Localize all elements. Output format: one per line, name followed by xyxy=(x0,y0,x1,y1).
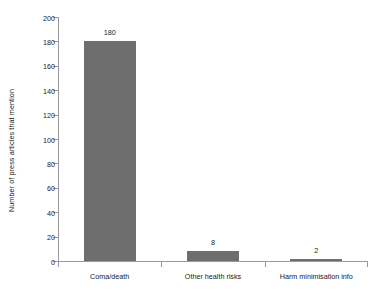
bar: 2 xyxy=(290,259,342,261)
x-axis-line xyxy=(58,261,368,262)
y-axis-tick-label: 80 xyxy=(47,159,55,168)
bar-value-label: 180 xyxy=(104,28,116,37)
x-axis-tick-mark xyxy=(161,262,162,267)
y-axis-tick-label: 120 xyxy=(43,111,55,120)
x-axis-category-label: Other health risks xyxy=(161,272,264,282)
x-axis-tick-mark xyxy=(265,262,266,267)
bar-chart: Number of press articles that mention 02… xyxy=(0,0,379,301)
y-axis-title: Number of press articles that mention xyxy=(0,0,22,301)
y-axis-tick-label: 100 xyxy=(43,135,55,144)
x-axis-category-label: Coma/death xyxy=(58,272,161,282)
bar: 180 xyxy=(84,41,136,261)
bar-value-label: 2 xyxy=(314,246,318,255)
y-axis-tick-label: 200 xyxy=(43,13,55,22)
x-axis-category-label: Harm minimisation info xyxy=(265,272,368,282)
y-axis-tick-label: 20 xyxy=(47,233,55,242)
y-axis-tick-label: 40 xyxy=(47,208,55,217)
bar-value-label: 8 xyxy=(211,238,215,247)
y-axis-tick-label: 180 xyxy=(43,37,55,46)
y-axis-tick-label: 140 xyxy=(43,86,55,95)
x-axis-tick-mark xyxy=(58,262,59,267)
x-axis-tick-mark xyxy=(367,262,368,267)
plot-area: 020406080100120140160180200 18082 Coma/d… xyxy=(58,17,368,262)
y-axis-tick-label: 60 xyxy=(47,184,55,193)
y-axis-tick-label: 160 xyxy=(43,62,55,71)
y-axis-line xyxy=(58,17,59,262)
bar: 8 xyxy=(187,251,239,261)
y-axis-tick-label: 0 xyxy=(51,257,55,266)
